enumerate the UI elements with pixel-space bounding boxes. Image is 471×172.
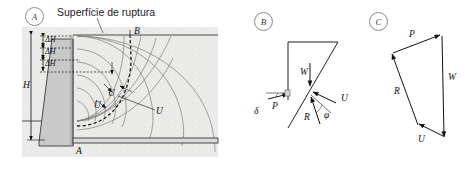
figure-three-panel-retaining-wall: A Superfície de ruptura bbox=[0, 0, 471, 172]
panel-c-label-reaction: R bbox=[394, 86, 400, 96]
panel-c-label-water-force: U bbox=[418, 134, 425, 144]
panel-c-label-thrust: P bbox=[409, 29, 415, 39]
panel-c-label-weight: W bbox=[448, 72, 456, 82]
panel-c-graphic bbox=[0, 0, 471, 172]
